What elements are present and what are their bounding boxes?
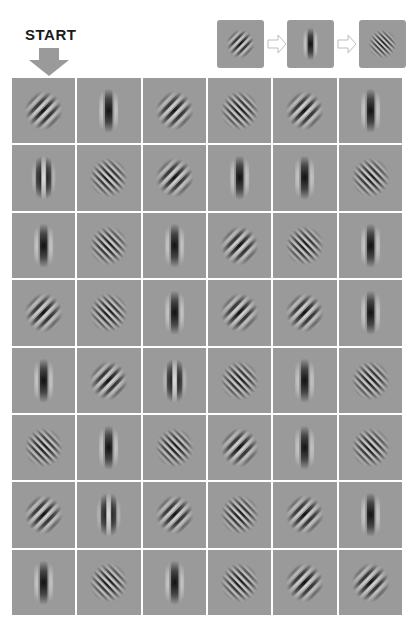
gabor-vertical-double-icon (143, 348, 206, 413)
gabor-diagonal-right-icon (208, 280, 271, 345)
gabor-vertical-double-icon (12, 145, 75, 210)
grid-cell[interactable] (208, 213, 271, 278)
legend-sequence (217, 20, 407, 68)
grid-cell[interactable] (143, 415, 206, 480)
gabor-vertical-icon (273, 348, 336, 413)
gabor-vertical-icon (208, 145, 271, 210)
gabor-vertical-icon (12, 550, 75, 615)
grid-cell[interactable] (143, 145, 206, 210)
grid-cell[interactable] (273, 78, 336, 143)
gabor-diagonal-left-icon (12, 415, 75, 480)
gabor-vertical-icon (77, 415, 140, 480)
gabor-diagonal-left-icon (208, 348, 271, 413)
grid-cell[interactable] (12, 550, 75, 615)
grid-cell[interactable] (143, 348, 206, 413)
gabor-vertical-icon (12, 213, 75, 278)
grid-cell[interactable] (339, 145, 402, 210)
grid-cell[interactable] (273, 280, 336, 345)
grid-cell[interactable] (208, 145, 271, 210)
grid-cell[interactable] (208, 415, 271, 480)
grid-cell[interactable] (77, 415, 140, 480)
grid-cell[interactable] (339, 280, 402, 345)
gabor-diagonal-left-icon (339, 348, 402, 413)
grid-cell[interactable] (208, 550, 271, 615)
gabor-vertical-double-icon (77, 482, 140, 547)
gabor-diagonal-left-icon (208, 482, 271, 547)
gabor-diagonal-right-icon (208, 213, 271, 278)
gabor-vertical-icon (273, 415, 336, 480)
gabor-diagonal-left-icon (208, 550, 271, 615)
gabor-diagonal-left-icon (143, 415, 206, 480)
gabor-diagonal-right-icon (217, 20, 264, 68)
gabor-diagonal-left-icon (77, 280, 140, 345)
right-arrow-icon (337, 34, 357, 54)
grid-cell[interactable] (339, 213, 402, 278)
grid-cell[interactable] (143, 280, 206, 345)
grid-cell[interactable] (208, 280, 271, 345)
legend-patch-2 (287, 20, 334, 68)
grid-cell[interactable] (77, 145, 140, 210)
grid-cell[interactable] (143, 78, 206, 143)
grid-cell[interactable] (339, 550, 402, 615)
gabor-diagonal-right-icon (12, 482, 75, 547)
gabor-diagonal-left-icon (77, 145, 140, 210)
gabor-vertical-icon (339, 280, 402, 345)
grid-cell[interactable] (143, 550, 206, 615)
grid-cell[interactable] (273, 145, 336, 210)
gabor-vertical-icon (339, 78, 402, 143)
grid-cell[interactable] (12, 78, 75, 143)
gabor-diagonal-right-icon (12, 280, 75, 345)
gabor-diagonal-left-icon (77, 213, 140, 278)
gabor-vertical-icon (143, 280, 206, 345)
legend-patch-3 (359, 20, 406, 68)
grid-cell[interactable] (77, 213, 140, 278)
grid-cell[interactable] (273, 213, 336, 278)
grid-cell[interactable] (12, 482, 75, 547)
grid-cell[interactable] (12, 348, 75, 413)
gabor-vertical-icon (339, 482, 402, 547)
gabor-diagonal-right-icon (143, 482, 206, 547)
gabor-diagonal-left-icon (339, 145, 402, 210)
grid-cell[interactable] (208, 348, 271, 413)
grid-cell[interactable] (77, 348, 140, 413)
grid-cell[interactable] (339, 415, 402, 480)
gabor-vertical-icon (339, 213, 402, 278)
gabor-vertical-icon (12, 348, 75, 413)
grid-cell[interactable] (143, 482, 206, 547)
right-arrow-icon (267, 34, 287, 54)
grid-cell[interactable] (12, 213, 75, 278)
gabor-diagonal-right-icon (77, 348, 140, 413)
grid-cell[interactable] (339, 348, 402, 413)
grid-cell[interactable] (12, 145, 75, 210)
gabor-vertical-icon (143, 213, 206, 278)
grid-cell[interactable] (339, 482, 402, 547)
grid-cell[interactable] (12, 415, 75, 480)
gabor-diagonal-right-icon (143, 145, 206, 210)
start-label: START (25, 26, 76, 43)
gabor-vertical-icon (273, 145, 336, 210)
gabor-diagonal-left-icon (208, 78, 271, 143)
grid-cell[interactable] (273, 482, 336, 547)
gabor-diagonal-right-icon (143, 78, 206, 143)
grid-cell[interactable] (273, 348, 336, 413)
grid-cell[interactable] (77, 550, 140, 615)
grid-cell[interactable] (273, 550, 336, 615)
gabor-diagonal-right-icon (273, 280, 336, 345)
gabor-diagonal-left-icon (359, 20, 406, 68)
gabor-vertical-icon (77, 78, 140, 143)
gabor-diagonal-right-icon (273, 550, 336, 615)
gabor-grid (12, 78, 402, 615)
gabor-vertical-icon (143, 550, 206, 615)
gabor-diagonal-right-icon (208, 415, 271, 480)
grid-cell[interactable] (208, 482, 271, 547)
grid-cell[interactable] (143, 213, 206, 278)
grid-cell[interactable] (273, 415, 336, 480)
grid-cell[interactable] (208, 78, 271, 143)
grid-cell[interactable] (339, 78, 402, 143)
gabor-diagonal-right-icon (273, 78, 336, 143)
grid-cell[interactable] (12, 280, 75, 345)
grid-cell[interactable] (77, 280, 140, 345)
grid-cell[interactable] (77, 78, 140, 143)
start-arrow-icon (29, 48, 69, 76)
grid-cell[interactable] (77, 482, 140, 547)
